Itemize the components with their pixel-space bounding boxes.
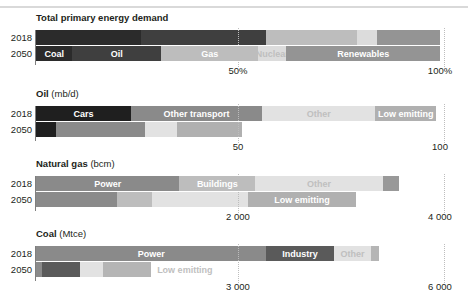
segment-label: Other transport: [164, 109, 230, 119]
bar-segment: Low emitting: [248, 192, 356, 207]
gridline-right: [444, 174, 446, 213]
bar-segment: Oil: [72, 46, 161, 61]
panel-title-unit: (mb/d): [51, 88, 78, 99]
segment-label: Renewables: [337, 49, 389, 59]
gridline-right: [444, 104, 446, 143]
bar-segment: [117, 192, 153, 207]
bar-segment: [266, 30, 357, 45]
panel-title-main: Natural gas: [36, 158, 88, 169]
bar-segment: [357, 30, 377, 45]
bar-segment: Gas: [161, 46, 258, 61]
panel-title-main: Coal: [36, 228, 57, 239]
x-axis-ticks: 50100: [0, 141, 468, 153]
x-axis-ticks: 50%100%: [0, 65, 468, 77]
gridline-right: [444, 244, 446, 283]
bar-segment: Low emitting: [151, 262, 241, 277]
bar-segment: Low emitting: [375, 106, 436, 121]
chart-panel: Oil (mb/d)2018CarsOther transportOtherLo…: [0, 88, 468, 158]
bar-segment: Other: [262, 106, 375, 121]
panel-title-unit: (bcm): [90, 158, 114, 169]
bar-segment: [377, 30, 440, 45]
gridline: [238, 104, 240, 143]
bar-segment: [145, 122, 177, 137]
tick-label: 100%: [428, 65, 452, 76]
year-label: 2050: [0, 264, 32, 275]
x-axis-ticks: 2 0004 000: [0, 211, 468, 223]
gridline: [238, 174, 240, 213]
tick-label: 50: [233, 141, 244, 152]
tick-label: 100: [432, 141, 448, 152]
panel-title: Total primary energy demand: [36, 12, 168, 23]
bar-segment: [36, 30, 141, 45]
tick-label: 2 000: [226, 211, 250, 222]
segment-label: Power: [94, 179, 121, 189]
top-divider: [0, 6, 468, 8]
segment-label: Nuclear: [258, 49, 286, 59]
bar-segment: Other transport: [131, 106, 262, 121]
chart-figure: Total primary energy demand20182050CoalO…: [0, 0, 468, 305]
bar-segment: Power: [36, 176, 179, 191]
bar-segment: Buildings: [179, 176, 255, 191]
bar-segment: Coal: [36, 46, 72, 61]
tick-label: 4 000: [428, 211, 452, 222]
year-label: 2050: [0, 124, 32, 135]
bar-segment: Other: [255, 176, 382, 191]
tick-label: 50%: [228, 65, 247, 76]
segment-label: Cars: [73, 109, 93, 119]
year-label: 2018: [0, 108, 32, 119]
tick-label: 6 000: [428, 281, 452, 292]
bar-segment: [177, 122, 242, 137]
bar-segment: Power: [36, 246, 266, 261]
bar-segment: Industry: [266, 246, 333, 261]
segment-label: Other: [307, 109, 331, 119]
segment-label: Gas: [201, 49, 218, 59]
bar-segment: [152, 192, 248, 207]
year-label: 2050: [0, 48, 32, 59]
panel-title: Coal (Mtce): [36, 228, 86, 239]
panel-title-main: Total primary energy demand: [36, 12, 168, 23]
segment-label: Buildings: [197, 179, 238, 189]
bar-segment: [383, 176, 399, 191]
bar-segment: [42, 262, 80, 277]
chart-panel: Coal (Mtce)2018PowerIndustryOther2050Low…: [0, 228, 468, 298]
chart-panel: Total primary energy demand20182050CoalO…: [0, 12, 468, 82]
year-label: 2018: [0, 178, 32, 189]
bar-segment: [36, 192, 117, 207]
bar-segment: [371, 246, 379, 261]
segment-label: Industry: [282, 249, 318, 259]
segment-label: Other: [307, 179, 331, 189]
bar-segment: [103, 262, 151, 277]
gridline: [238, 28, 240, 67]
tick-label: 3 000: [226, 281, 250, 292]
gridline-right: [444, 28, 446, 67]
bar-segment: Renewables: [286, 46, 440, 61]
bar-segment: [36, 122, 56, 137]
x-axis-ticks: 3 0006 000: [0, 281, 468, 293]
bar-segment: Cars: [36, 106, 131, 121]
segment-label: Low emitting: [274, 195, 330, 205]
segment-label: Low emitting: [157, 265, 213, 275]
panel-title-main: Oil: [36, 88, 49, 99]
bar-segment: Other: [334, 246, 372, 261]
panel-title: Natural gas (bcm): [36, 158, 115, 169]
bar-segment: [80, 262, 102, 277]
year-label: 2050: [0, 194, 32, 205]
segment-label: Low emitting: [378, 109, 434, 119]
year-label: 2018: [0, 32, 32, 43]
segment-label: Power: [138, 249, 165, 259]
year-label: 2018: [0, 248, 32, 259]
bar-segment: Nuclear: [258, 46, 286, 61]
bar-segment: [141, 30, 266, 45]
chart-panel: Natural gas (bcm)2018PowerBuildingsOther…: [0, 158, 468, 228]
segment-label: Other: [341, 249, 365, 259]
segment-label: Coal: [44, 49, 64, 59]
panel-title-unit: (Mtce): [59, 228, 86, 239]
panel-title: Oil (mb/d): [36, 88, 79, 99]
segment-label: Oil: [111, 49, 123, 59]
gridline: [238, 244, 240, 283]
bar-segment: [56, 122, 145, 137]
